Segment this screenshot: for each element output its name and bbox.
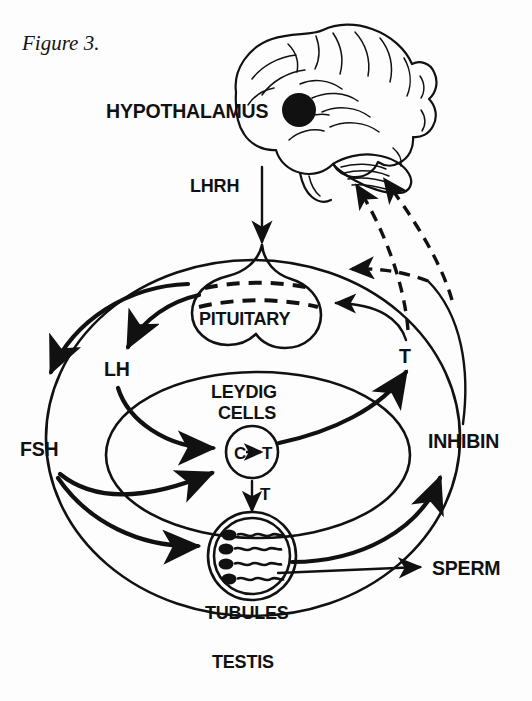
endocrine-axis-diagram: Figure 3. HYPOTHALAMUS	[0, 0, 532, 701]
arrow-t-feedback-hypothalamus	[357, 186, 408, 330]
tubule-icon	[208, 512, 296, 600]
label-tubules: TUBULES	[205, 603, 289, 623]
label-pituitary: PITUITARY	[199, 309, 290, 329]
label-testosterone-product: T	[262, 444, 273, 463]
label-cholesterol: C	[234, 444, 246, 463]
label-leydig-line2: CELLS	[218, 403, 276, 423]
arrow-testosterone-to-pituitary	[279, 372, 406, 443]
arrow-lh-to-leydig	[118, 388, 213, 448]
hypothalamus-dot-icon	[282, 93, 316, 127]
label-fsh: FSH	[20, 438, 58, 460]
arrow-inhibin-from-tubules	[292, 478, 440, 562]
figure-container: Figure 3. HYPOTHALAMUS	[0, 0, 532, 701]
label-leydig-line1: LEYDIG	[211, 382, 277, 402]
arrow-inhibin-to-pituitary	[352, 269, 428, 281]
arrow-lh-from-pituitary	[128, 295, 199, 347]
arrow-inhibin-feedback-hypothalamus	[385, 180, 452, 300]
label-testosterone-local: T	[260, 485, 271, 504]
arrow-fsh-to-leydig	[60, 473, 212, 495]
label-lh: LH	[104, 358, 130, 380]
label-inhibin: INHIBIN	[428, 430, 499, 452]
leydig-cell-icon: C T	[226, 426, 278, 478]
label-testosterone-systemic: T	[399, 345, 411, 367]
label-sperm: SPERM	[432, 557, 500, 579]
label-lhrh: LHRH	[190, 176, 239, 196]
label-testis: TESTIS	[212, 652, 274, 672]
label-hypothalamus: HYPOTHALAMUS	[106, 100, 268, 122]
figure-caption: Figure 3.	[21, 31, 99, 55]
arrow-sperm-output	[278, 567, 420, 573]
